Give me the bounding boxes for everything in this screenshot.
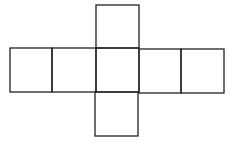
net-square-row-3-center xyxy=(96,48,139,92)
net-square-top xyxy=(96,5,139,48)
net-square-row-5 xyxy=(181,49,224,93)
net-square-row-4 xyxy=(139,49,181,93)
net-square-bottom xyxy=(95,92,138,136)
net-square-row-1 xyxy=(10,48,52,92)
cube-net-diagram xyxy=(0,0,235,147)
net-square-row-2 xyxy=(52,48,96,92)
